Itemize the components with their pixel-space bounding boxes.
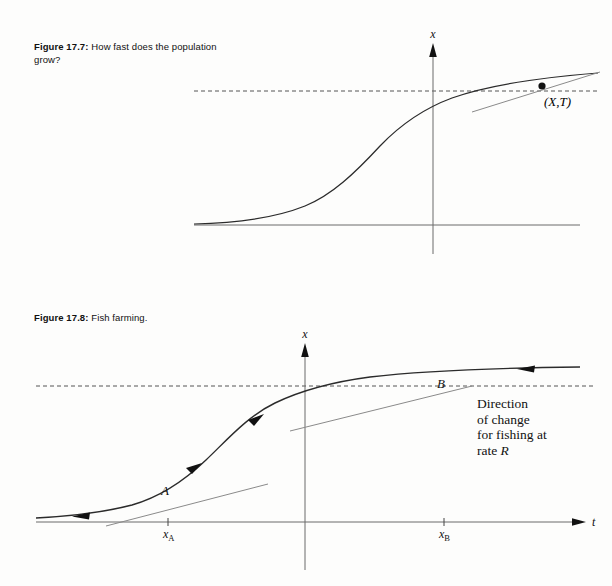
direction-annotation-line-3: for fishing at xyxy=(477,427,597,443)
figure-17-7-plot: x (X,T) xyxy=(180,28,610,263)
horizontal-axis-label: t xyxy=(592,515,596,529)
tangent-line-B xyxy=(290,386,472,431)
flow-arrow-rising-1 xyxy=(186,463,202,474)
figure-17-8-caption-text: Fish farming. xyxy=(91,312,147,323)
horizontal-axis-arrowhead xyxy=(572,518,586,526)
tick-label-xA-sub: A xyxy=(168,533,175,543)
tangent-line xyxy=(472,72,600,112)
point-label-XT: (X,T) xyxy=(544,94,571,109)
direction-annotation-rate-word: rate xyxy=(477,443,497,458)
vertical-axis-arrowhead xyxy=(301,343,309,357)
tick-label-xB: xB xyxy=(438,527,450,543)
figure-17-7-caption-lead: Figure 17.7: xyxy=(34,41,89,52)
direction-annotation: Direction of change for fishing at rate … xyxy=(477,396,597,458)
direction-annotation-line-2: of change xyxy=(477,412,597,428)
direction-annotation-line-1: Direction xyxy=(477,396,597,412)
tick-label-xB-sub: B xyxy=(444,533,450,543)
figure-17-8-caption: Figure 17.8: Fish farming. xyxy=(34,311,254,324)
flow-arrow-rising-2 xyxy=(248,414,264,426)
vertical-axis-label: x xyxy=(301,327,308,341)
population-curve xyxy=(194,73,598,224)
page-canvas: Figure 17.7: How fast does the populatio… xyxy=(0,0,612,586)
point-label-B: B xyxy=(437,376,445,391)
tick-label-xA: xA xyxy=(162,527,175,543)
figure-17-8-caption-lead: Figure 17.8: xyxy=(34,312,89,323)
vertical-axis-arrowhead xyxy=(429,43,437,57)
vertical-axis-label: x xyxy=(429,27,436,41)
marked-point-XT xyxy=(538,82,545,89)
flow-arrow-left-inner xyxy=(517,366,535,373)
direction-annotation-line-4: rate R xyxy=(477,443,597,459)
direction-annotation-rate-symbol: R xyxy=(501,443,509,458)
point-label-A: A xyxy=(160,483,169,498)
